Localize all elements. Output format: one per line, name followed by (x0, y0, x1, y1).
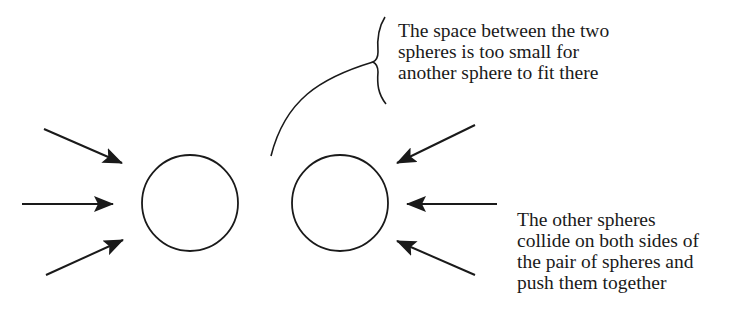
arrow-icon (46, 240, 123, 275)
annotation-line: The space between the two (398, 20, 609, 41)
arrow-icon (397, 125, 475, 163)
arrow-icon (397, 241, 475, 275)
incoming-arrows-left (22, 129, 123, 275)
annotation-line: push them together (517, 272, 699, 293)
annotation-line: the pair of spheres and (517, 251, 699, 272)
annotation-line: collide on both sides of (517, 230, 699, 251)
leader-line (271, 62, 373, 156)
annotation-gap-too-small: The space between the two spheres is too… (398, 20, 609, 83)
right-sphere (292, 155, 388, 251)
arrow-icon (44, 129, 122, 163)
brace-icon (373, 17, 386, 104)
incoming-arrows-right (397, 125, 497, 275)
annotation-line: The other spheres (517, 209, 699, 230)
annotation-line: another sphere to fit there (398, 62, 609, 83)
left-sphere (142, 155, 238, 251)
annotation-line: spheres is too small for (398, 41, 609, 62)
spheres-group (142, 155, 388, 251)
annotation-collisions: The other spheres collide on both sides … (517, 209, 699, 293)
